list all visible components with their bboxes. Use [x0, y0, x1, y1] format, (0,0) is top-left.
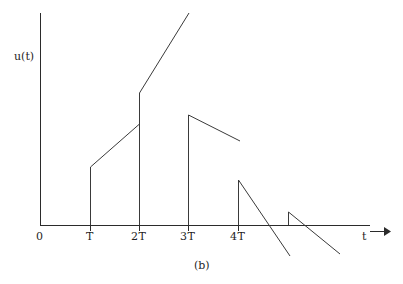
- pulse-3-waveform: [189, 115, 241, 225]
- pulse-2-waveform: [140, 13, 190, 225]
- pulse-5-waveform: [289, 212, 341, 254]
- x-tick-label-4T: 4T: [230, 231, 245, 242]
- y-axis-label: u(t): [14, 51, 34, 62]
- figure-caption: (b): [194, 260, 210, 271]
- x-tick-label-3T: 3T: [180, 231, 195, 242]
- signal-plot: [0, 0, 403, 284]
- x-tick-label-2T: 2T: [131, 231, 146, 242]
- pulse-1-waveform: [91, 124, 140, 225]
- x-tick-label-0: 0: [36, 231, 44, 242]
- pulse-4-waveform: [239, 180, 291, 256]
- figure-container: u(t) 0 T 2T 3T 4T t (b): [0, 0, 403, 284]
- x-tick-label-T: T: [86, 231, 94, 242]
- x-axis-label: t: [362, 231, 366, 242]
- x-axis-arrow-icon: [384, 227, 391, 236]
